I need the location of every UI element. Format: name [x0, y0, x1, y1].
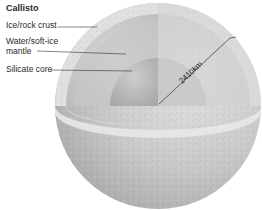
label-mantle: mantle — [6, 46, 32, 56]
diagram-title: Callisto — [6, 3, 39, 13]
label-ice-rock-crust: Ice/rock crust — [6, 20, 57, 30]
label-water-soft-ice: Water/soft-ice — [6, 36, 58, 46]
callisto-cutaway-diagram: 2410km — [0, 0, 262, 210]
label-silicate-core: Silicate core — [6, 64, 52, 74]
